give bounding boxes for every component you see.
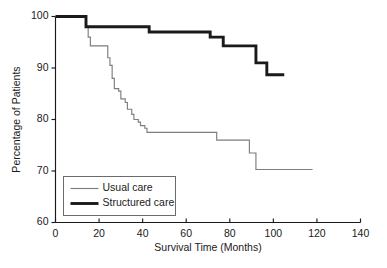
y-axis-ticks: 60708090100 <box>31 9 56 227</box>
y-tick-label: 100 <box>31 9 49 21</box>
chart-canvas: 60708090100020406080100120140Survival Ti… <box>0 0 387 268</box>
y-tick-label: 60 <box>37 215 49 227</box>
y-tick-label: 70 <box>37 164 49 176</box>
x-tick-label: 40 <box>137 227 149 239</box>
legend-label-usual-care: Usual care <box>103 181 153 193</box>
x-axis-title: Survival Time (Months) <box>154 241 261 253</box>
x-tick-label: 0 <box>53 227 59 239</box>
x-tick-label: 100 <box>265 227 283 239</box>
x-tick-label: 140 <box>352 227 370 239</box>
legend: Usual careStructured care <box>64 177 176 216</box>
x-tick-label: 60 <box>180 227 192 239</box>
y-tick-label: 90 <box>37 61 49 73</box>
x-tick-label: 80 <box>224 227 236 239</box>
x-tick-label: 120 <box>308 227 326 239</box>
y-tick-label: 80 <box>37 112 49 124</box>
survival-curve-chart: 60708090100020406080100120140Survival Ti… <box>0 0 387 268</box>
legend-label-structured-care: Structured care <box>103 196 175 208</box>
usual-care-curve <box>56 17 313 170</box>
curves <box>56 17 313 170</box>
y-axis-title: Percentage of Patients <box>10 66 22 172</box>
x-tick-label: 20 <box>93 227 105 239</box>
x-axis-ticks: 020406080100120140 <box>53 219 370 239</box>
